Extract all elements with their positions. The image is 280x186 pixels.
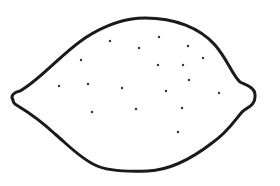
peel-dot: [109, 40, 111, 42]
peel-dot: [177, 131, 179, 133]
peel-dot: [182, 64, 184, 66]
lemon-drawing: [0, 0, 280, 186]
peel-dot: [165, 90, 167, 92]
peel-dot: [158, 36, 160, 38]
peel-dot: [187, 45, 189, 47]
peel-dot: [58, 85, 60, 87]
peel-dot: [218, 92, 220, 94]
peel-dot: [80, 59, 82, 61]
peel-dot: [121, 87, 123, 89]
peel-dot: [202, 57, 204, 59]
peel-dot: [188, 79, 190, 81]
peel-dot: [138, 47, 140, 49]
peel-dot: [91, 111, 93, 113]
peel-dot: [87, 83, 89, 85]
peel-dot: [157, 64, 159, 66]
peel-dot: [135, 108, 137, 110]
peel-dot: [181, 107, 183, 109]
background: [0, 0, 280, 186]
